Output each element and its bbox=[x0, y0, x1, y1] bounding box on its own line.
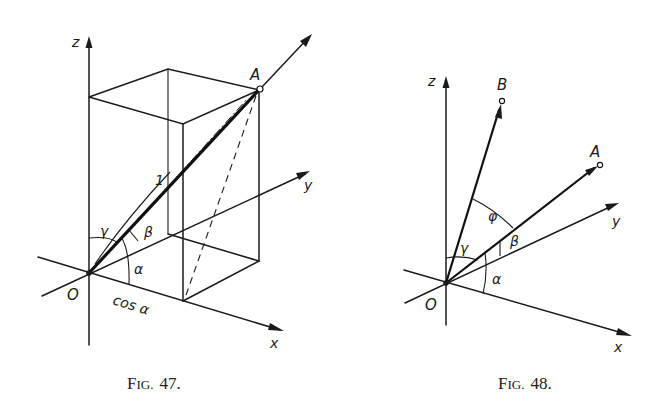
alpha-arc bbox=[483, 253, 486, 294]
y-axis-arrowhead bbox=[605, 203, 619, 211]
y-axis-label: y bbox=[303, 177, 313, 193]
origin-label: O bbox=[67, 286, 79, 304]
point-a-label: A bbox=[589, 143, 600, 161]
unit-label: 1 bbox=[155, 172, 164, 188]
point-a-label: A bbox=[249, 66, 260, 84]
beta-arc bbox=[129, 230, 138, 241]
z-axis-arrowhead bbox=[86, 36, 93, 48]
gamma-label: γ bbox=[460, 240, 469, 256]
cos-alpha-label: cos α bbox=[111, 292, 152, 318]
figure-48: z x y B A O φ γ β α FIG.4 bbox=[404, 73, 632, 393]
beta-label: β bbox=[143, 224, 153, 240]
point-b-marker bbox=[499, 98, 504, 103]
box-bottom-front bbox=[183, 261, 259, 301]
z-axis-label: z bbox=[71, 34, 80, 50]
vector-oa-extension bbox=[262, 37, 309, 87]
vector-oa bbox=[89, 91, 258, 273]
alpha-label: α bbox=[134, 261, 144, 277]
z-axis-arrowhead bbox=[443, 76, 450, 88]
y-axis bbox=[405, 205, 614, 303]
ob-arrowhead bbox=[495, 104, 502, 119]
figure-48-caption: FIG.48. bbox=[498, 374, 552, 393]
x-axis bbox=[404, 270, 626, 334]
origin-dot bbox=[86, 270, 92, 276]
x-axis-arrowhead bbox=[268, 323, 284, 331]
diagram-canvas: z x y A O 1 γ bbox=[0, 0, 664, 410]
z-axis-label: z bbox=[427, 73, 436, 89]
origin-label: O bbox=[425, 296, 437, 314]
point-a-marker bbox=[597, 162, 602, 167]
point-a-marker bbox=[257, 86, 263, 92]
figure-47: z x y A O 1 γ bbox=[38, 34, 313, 393]
gamma-arc bbox=[446, 257, 478, 260]
x-axis-arrowhead bbox=[616, 328, 632, 336]
alpha-label: α bbox=[492, 271, 502, 287]
x-axis-label: x bbox=[269, 335, 279, 351]
phi-label: φ bbox=[488, 208, 498, 224]
x-axis-label: x bbox=[613, 339, 623, 355]
point-b-label: B bbox=[497, 76, 507, 94]
box-bottom-back bbox=[168, 234, 259, 261]
y-axis-label: y bbox=[611, 213, 621, 229]
alpha-arc bbox=[121, 237, 129, 285]
figure-47-caption: FIG.47. bbox=[127, 374, 181, 393]
gamma-label: γ bbox=[100, 223, 109, 239]
beta-label: β bbox=[509, 233, 519, 249]
origin-dot bbox=[443, 280, 449, 286]
